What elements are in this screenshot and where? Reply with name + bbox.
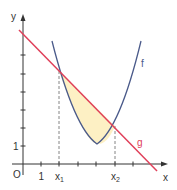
- x-axis-label: x: [163, 172, 168, 183]
- y-unit-label: 1: [13, 141, 19, 152]
- y-axis-arrow-icon: [21, 14, 26, 21]
- y-axis-label: y: [11, 11, 16, 22]
- x1-label: x1: [55, 171, 64, 183]
- x2-label: x2: [111, 171, 120, 183]
- f-label: f: [141, 58, 144, 69]
- function-diagram: y x O 1 1 x1 x2 f g: [0, 0, 177, 190]
- g-label: g: [137, 137, 143, 148]
- x-axis-arrow-icon: [161, 162, 168, 167]
- line-g: [19, 30, 157, 171]
- x-unit-label: 1: [39, 171, 45, 182]
- origin-label: O: [13, 169, 21, 180]
